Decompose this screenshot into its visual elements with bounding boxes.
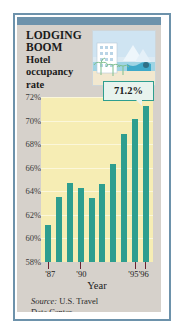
plot-area <box>41 97 153 262</box>
x-tick <box>48 262 49 269</box>
tick-slot <box>56 262 62 269</box>
y-axis-label: 58% <box>25 257 41 267</box>
bar <box>132 119 138 262</box>
callout-tail <box>135 99 142 106</box>
bar <box>121 134 127 262</box>
tick-slot <box>45 262 51 269</box>
y-axis-label: 64% <box>25 186 41 196</box>
y-axis-label: 72% <box>25 92 41 102</box>
source-text: U.S. Travel <box>59 296 98 306</box>
card-top-band <box>17 17 161 25</box>
y-axis-label: 60% <box>25 233 41 243</box>
source-prefix: Source: <box>31 296 57 306</box>
callout-badge: 71.2% <box>103 81 154 101</box>
tick-slot <box>110 262 116 269</box>
tick-slot <box>67 262 73 269</box>
y-axis-label: 70% <box>25 116 41 126</box>
x-axis-label: '87 <box>45 269 55 279</box>
x-tick <box>135 262 136 269</box>
y-axis: 72%70%68%66%64%62%60%58% <box>17 93 41 263</box>
source-note: Source: U.S. Travel Data Center <box>31 296 151 312</box>
y-axis-label: 66% <box>25 163 41 173</box>
x-axis-label: '96 <box>139 269 149 279</box>
x-tick <box>145 262 146 269</box>
bar <box>99 184 105 262</box>
tick-slot <box>78 262 84 269</box>
bar <box>143 106 149 262</box>
bar <box>78 188 84 262</box>
y-axis-label: 62% <box>25 210 41 220</box>
chart-plot-wrapper: 72%70%68%66%64%62%60%58% '87'90'95'96 Ye… <box>17 25 161 312</box>
x-axis-label: '95 <box>128 269 138 279</box>
chart-card: LODGING BOOM Hotel occupancy rate <box>17 25 161 312</box>
x-axis-label: '90 <box>76 269 86 279</box>
bar <box>56 197 62 262</box>
tick-slot <box>121 262 127 269</box>
infographic-card-root: LODGING BOOM Hotel occupancy rate <box>0 0 181 334</box>
x-axis-title: Year <box>41 280 153 291</box>
tick-slot <box>143 262 149 269</box>
bar <box>67 183 73 262</box>
y-axis-label: 68% <box>25 139 41 149</box>
tick-slot <box>89 262 95 269</box>
tick-slot <box>132 262 138 269</box>
source-text-2: Data Center <box>31 307 72 313</box>
tick-slot <box>99 262 105 269</box>
bar <box>110 164 116 262</box>
bar <box>45 225 51 262</box>
bar-series <box>41 97 153 262</box>
x-axis-ticks <box>41 262 153 269</box>
bar <box>89 198 95 262</box>
x-tick <box>80 262 81 269</box>
